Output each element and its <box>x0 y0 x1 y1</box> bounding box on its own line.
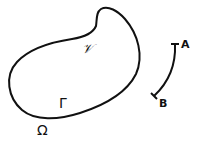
arc-curve-a-b <box>154 44 175 96</box>
exterior-label: Ω <box>37 122 48 138</box>
region-boundary-curve <box>9 8 140 119</box>
diagram-canvas: 𝒱 Γ Ω A B <box>0 0 203 143</box>
interior-label: 𝒱 <box>82 41 97 56</box>
arc-label-a: A <box>181 38 190 51</box>
arc-label-b: B <box>159 97 167 110</box>
boundary-label: Γ <box>59 95 67 111</box>
